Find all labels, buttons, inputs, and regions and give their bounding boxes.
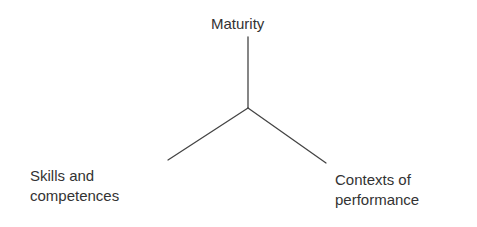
label-skills-line-1: Skills and [30,166,119,186]
axis-skills-and-competences [168,108,248,160]
label-maturity-line-1: Maturity [211,14,264,34]
label-contexts-of-performance: Contexts of performance [335,170,419,210]
label-maturity: Maturity [211,14,264,34]
label-contexts-line-1: Contexts of [335,170,419,190]
label-skills-line-2: competences [30,186,119,206]
label-contexts-line-2: performance [335,190,419,210]
axis-contexts-of-performance [248,108,326,163]
diagram-canvas: Maturity Skills and competences Contexts… [0,0,477,227]
label-skills-and-competences: Skills and competences [30,166,119,206]
